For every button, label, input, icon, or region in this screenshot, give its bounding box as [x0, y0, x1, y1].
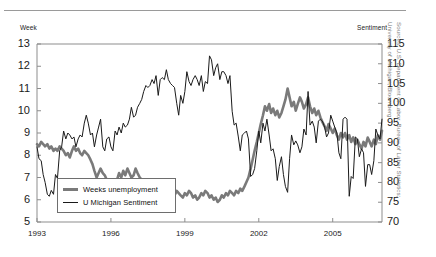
chart-legend: Weeks unemployment U Michigan Sentiment: [57, 178, 176, 213]
tick-label: 7: [8, 172, 30, 183]
legend-swatch-unemployment: [63, 188, 78, 191]
tick-label: 1993: [17, 228, 57, 239]
chart-plot: [0, 0, 436, 257]
tick-label: 1996: [91, 228, 131, 239]
tick-label: 1999: [165, 228, 205, 239]
tick-label: 13: [8, 38, 30, 49]
tick-label: 12: [8, 60, 30, 71]
source-note: Sources: U.S. Department of Labor, Burea…: [378, 22, 404, 254]
tick-label: 10: [8, 105, 30, 116]
tick-label: 11: [8, 83, 30, 94]
tick-label: 6: [8, 194, 30, 205]
tick-label: 9: [8, 127, 30, 138]
source-line-2: University of Michigan; Bloomberg: [386, 22, 395, 254]
legend-item: Weeks unemployment: [63, 183, 175, 196]
legend-label-sentiment: U Michigan Sentiment: [83, 198, 157, 207]
legend-item: U Michigan Sentiment: [63, 196, 175, 209]
legend-swatch-sentiment: [63, 202, 78, 203]
legend-label-unemployment: Weeks unemployment: [83, 185, 158, 194]
tick-label: 2005: [313, 228, 353, 239]
figure-container: Week Sentiment 5678910111213707580859095…: [0, 0, 436, 257]
source-line-1: Sources: U.S. Department of Labor, Burea…: [395, 22, 404, 254]
tick-label: 2002: [239, 228, 279, 239]
tick-label: 5: [8, 216, 30, 227]
tick-label: 8: [8, 149, 30, 160]
